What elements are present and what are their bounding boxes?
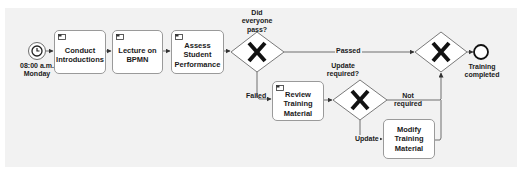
question-line: everyone [237,17,277,25]
end-label-line: completed [463,71,501,79]
start-label-line1: 08:00 a.m. [17,62,57,70]
task-label: Modify Training [394,125,423,143]
task-marker-icon [58,34,66,40]
end-event-label: Training completed [463,63,501,80]
gateway-question-update-required: Update required? [323,62,363,79]
task-label: Material [395,144,423,153]
task-marker-icon [276,85,284,91]
task-label: Review [285,90,311,99]
flow-label-line: required [393,100,423,108]
gateway-merge[interactable] [415,32,467,72]
task-lecture-on-bpmn[interactable]: Lecture onBPMN [112,30,163,74]
task-label: Assess Student [184,41,212,59]
start-event-label: 08:00 a.m. Monday [17,62,57,79]
flow-label-failed: Failed [246,92,266,100]
task-modify-training-material[interactable]: Modify TrainingMaterial [383,119,435,159]
task-label: Training [283,99,312,108]
flow-label-passed: Passed [335,47,362,55]
flow-label-update: Update [354,135,380,143]
question-line: Update [323,62,363,70]
start-label-line2: Monday [17,70,57,78]
task-marker-icon [116,34,124,40]
start-timer-event[interactable] [29,43,46,60]
task-label: BPMN [126,55,148,64]
task-marker-icon [175,34,183,40]
task-label: Introductions [56,55,104,64]
task-label: Performance [175,60,221,69]
gateway-did-everyone-pass[interactable] [231,32,284,72]
flow-label-not-required: Not required [393,92,423,109]
question-line: required? [323,70,363,78]
task-review-training-material[interactable]: ReviewTrainingMaterial [272,81,324,121]
gateway-update-required[interactable] [333,80,387,120]
end-label-line: Training [463,63,501,71]
task-assess-student-performance[interactable]: Assess StudentPerformance [171,30,224,74]
end-event[interactable] [474,45,488,59]
question-line: pass? [237,26,277,34]
task-label: Material [284,109,312,118]
flow-label-line: Not [393,92,423,100]
task-label: Conduct [65,46,95,55]
gateway-question-did-everyone-pass: Did everyone pass? [237,9,277,34]
task-label: Lecture on [118,46,156,55]
question-line: Did [237,9,277,17]
task-conduct-introductions[interactable]: ConductIntroductions [54,30,106,74]
